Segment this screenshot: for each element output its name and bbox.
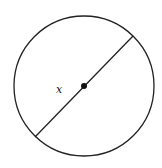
circle-diagram: x [0, 0, 162, 168]
length-label: x [56, 83, 63, 96]
center-point [81, 83, 87, 89]
